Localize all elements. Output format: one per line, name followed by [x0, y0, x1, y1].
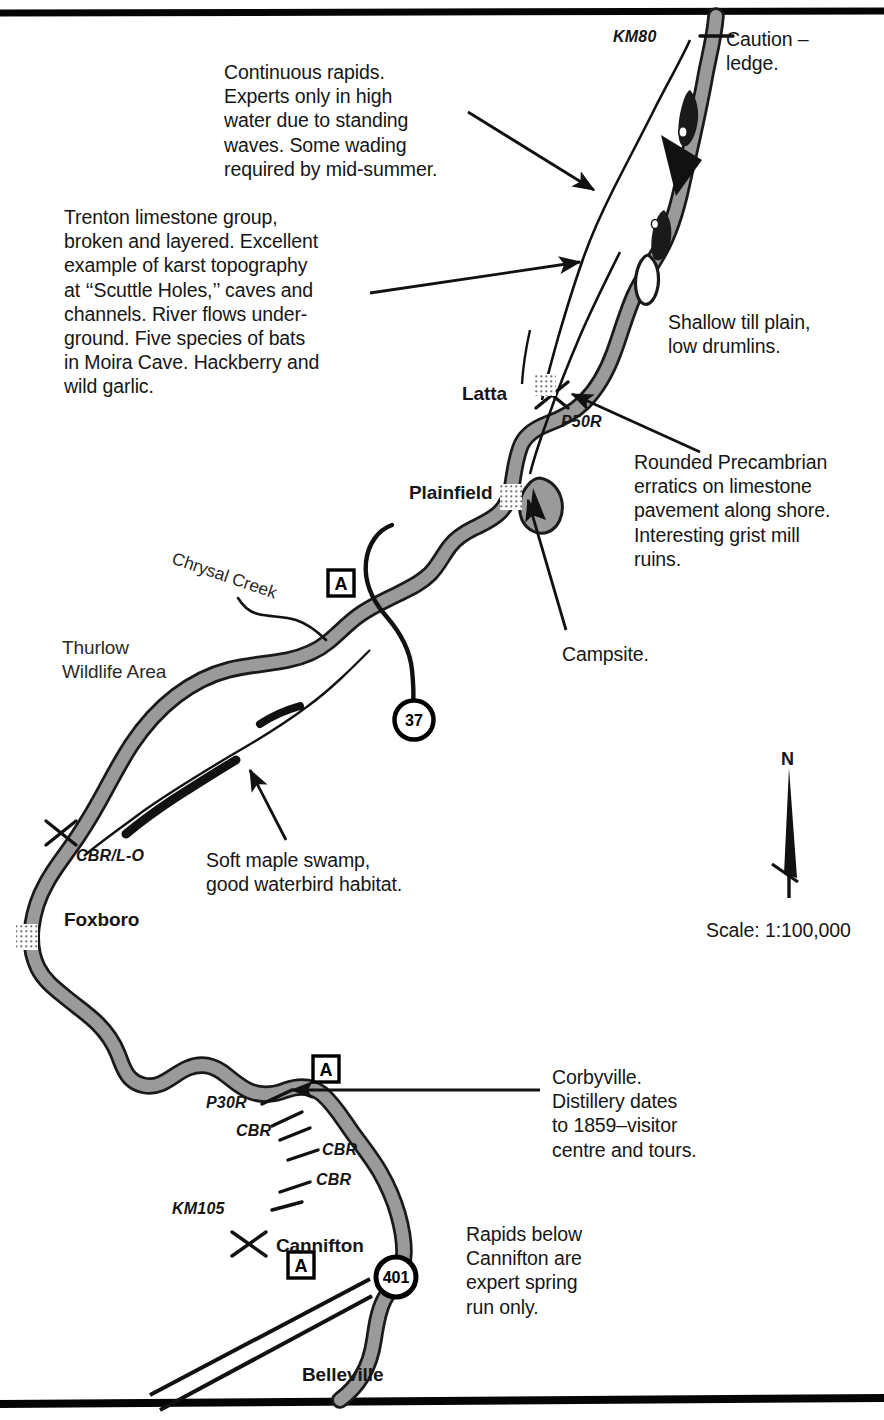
note-rounded-precambrian: Rounded Precambrian erratics on limeston…	[634, 450, 874, 571]
scale-label: Scale: 1:100,000	[706, 918, 851, 942]
tributary-above-latta	[522, 330, 530, 384]
access-label-plainfield[interactable]: A	[328, 575, 354, 593]
note-trenton-limestone: Trenton limestone group, broken and laye…	[64, 205, 364, 398]
river-marker-cbr-lo: CBR/L-O	[76, 846, 144, 866]
town-marker-latta	[534, 374, 556, 396]
highway-37-line	[366, 525, 434, 740]
note-continuous-rapids: Continuous rapids. Experts only in high …	[224, 60, 494, 181]
note-rapids-below-cannifton: Rapids below Cannifton are expert spring…	[466, 1222, 666, 1319]
river-marker-cbr-1: CBR	[236, 1121, 271, 1141]
map-frame-bottom	[0, 1398, 884, 1404]
tick-cbr2	[280, 1128, 310, 1140]
river-pool-plainfield	[520, 478, 563, 533]
note-campsite: Campsite.	[562, 642, 722, 666]
river-marker-cbr-3: CBR	[316, 1170, 351, 1190]
chrysal-creek-line	[238, 598, 326, 640]
note-soft-maple-swamp: Soft maple swamp, good waterbird habitat…	[206, 848, 456, 896]
map-frame-top	[0, 11, 884, 13]
north-arrow-label: N	[781, 748, 794, 770]
town-marker-plainfield	[500, 484, 522, 510]
river-marker-km80: KM80	[613, 27, 656, 47]
town-label-plainfield: Plainfield	[409, 481, 492, 505]
river-islands-upper	[635, 90, 698, 304]
note-corbyville: Corbyville. Distillery dates to 1859–vis…	[552, 1065, 782, 1162]
note-caution-ledge: Caution – ledge.	[726, 27, 876, 75]
leader-soft-maple-swamp	[250, 770, 286, 840]
north-arrow	[772, 768, 798, 898]
town-marker-foxboro	[16, 924, 38, 950]
town-label-foxboro: Foxboro	[64, 908, 139, 932]
access-label-belleville[interactable]: A	[288, 1257, 314, 1275]
river-marker-p30r: P30R	[206, 1093, 247, 1113]
town-label-belleville: Belleville	[302, 1363, 383, 1387]
tick-cbr3	[288, 1150, 318, 1160]
tick-cbr5	[272, 1202, 302, 1210]
access-label-corbyville[interactable]: A	[313, 1061, 339, 1079]
river-marker-p50r: P50R	[561, 412, 602, 432]
town-label-cannifton: Cannifton	[276, 1234, 364, 1258]
area-label-thurlow-wildlife-area: Thurlow Wildlife Area	[62, 636, 232, 683]
tick-cbr1	[272, 1112, 302, 1126]
town-label-latta: Latta	[462, 382, 507, 406]
leader-trenton-limestone	[370, 262, 580, 293]
tick-cbr4	[280, 1182, 310, 1192]
highway-label-37[interactable]: 37	[395, 712, 433, 730]
river-marker-km105: KM105	[172, 1199, 225, 1219]
highway-label-401[interactable]: 401	[375, 1269, 417, 1287]
note-shallow-till-plain: Shallow till plain, low drumlins.	[668, 310, 868, 358]
river-marker-cbr-2: CBR	[322, 1140, 357, 1160]
map-page: Continuous rapids. Experts only in high …	[0, 0, 884, 1420]
